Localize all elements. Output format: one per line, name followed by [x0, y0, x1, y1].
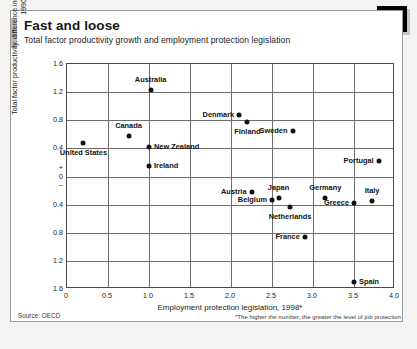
data-point-label: France: [276, 233, 300, 242]
y-tick-label: 1.2: [53, 87, 63, 96]
y-tick-label: 1.6: [53, 59, 63, 68]
data-point-label: Australia: [135, 76, 167, 85]
data-point-label: Spain: [359, 278, 379, 287]
gridline-vertical: [149, 64, 150, 287]
gridline-vertical: [190, 64, 191, 287]
y-tick-label: 1.6: [53, 284, 63, 293]
gridline-horizontal: [67, 148, 393, 149]
gridline-vertical: [231, 64, 232, 287]
x-tick-label: 1.0: [143, 291, 153, 300]
chart-title: Fast and loose: [24, 18, 120, 33]
data-point-label: Germany: [309, 184, 341, 193]
data-point-label: Denmark: [203, 110, 235, 119]
data-point-label: Finland: [234, 128, 260, 137]
x-tick-label: 1.5: [184, 291, 194, 300]
data-point: [376, 159, 381, 164]
x-tick-label: 2.0: [225, 291, 235, 300]
footnote-text: *The higher the number, the greater the …: [235, 313, 401, 320]
data-point: [245, 119, 250, 124]
data-point-label: Portugal: [344, 157, 374, 166]
data-point: [290, 128, 295, 133]
data-point: [237, 112, 242, 117]
x-tick-label: 3.5: [348, 291, 358, 300]
data-point-label: Ireland: [154, 162, 178, 171]
data-point-label: Italy: [365, 188, 380, 197]
data-point: [276, 196, 281, 201]
data-point-label: Belgium: [238, 196, 267, 205]
x-tick-label: 0.5: [102, 291, 112, 300]
data-point: [352, 200, 357, 205]
x-axis-title: Employment protection legislation, 1998*: [66, 303, 394, 312]
data-point-label: Sweden: [260, 127, 288, 136]
data-point: [147, 163, 152, 168]
data-point: [302, 234, 307, 239]
data-point-label: Japan: [268, 185, 289, 194]
data-point: [81, 140, 86, 145]
gridline-horizontal: [67, 92, 393, 93]
gridline-horizontal: [67, 177, 393, 178]
data-point-label: New Zealand: [154, 143, 199, 152]
gridline-vertical: [272, 64, 273, 287]
y-tick-label: 0.8: [53, 228, 63, 237]
gridline-horizontal: [67, 261, 393, 262]
data-point: [288, 205, 293, 210]
data-point: [147, 144, 152, 149]
data-point-label: Canada: [115, 122, 142, 131]
data-point: [148, 88, 153, 93]
data-point: [249, 189, 254, 194]
data-point-label: United States: [60, 149, 107, 158]
y-axis-title-wrap: Total factor productivity, difference in…: [30, 63, 44, 288]
y-tick-label: 0.4: [53, 200, 63, 209]
data-point-label: Greece: [324, 198, 349, 207]
data-point: [352, 279, 357, 284]
gridline-vertical: [108, 64, 109, 287]
gridline-vertical: [313, 64, 314, 287]
data-point: [370, 199, 375, 204]
gridline-horizontal: [67, 233, 393, 234]
x-tick-label: 0: [64, 291, 68, 300]
data-point: [126, 133, 131, 138]
data-point-label: Netherlands: [269, 213, 312, 222]
y-tick-label: 0.4: [53, 143, 63, 152]
source-note: Source: OECD: [18, 312, 60, 319]
x-tick-label: 3.0: [307, 291, 317, 300]
y-axis-title: Total factor productivity, difference in…: [11, 0, 29, 115]
x-tick-label: 2.5: [266, 291, 276, 300]
y-tick-label: 1.2: [53, 256, 63, 265]
gridline-vertical: [354, 64, 355, 287]
chart-page: 16 Fast and loose Total factor productiv…: [0, 0, 417, 349]
chart-subtitle: Total factor productivity growth and emp…: [24, 35, 290, 45]
x-tick-label: 4.0: [389, 291, 399, 300]
y-tick-label: 0.8: [53, 115, 63, 124]
y-tick-label: –: [59, 180, 63, 189]
plot-area: United StatesCanadaAustraliaNew ZealandI…: [66, 63, 394, 288]
data-point: [270, 198, 275, 203]
x-axis-ticks: 00.51.01.52.02.53.03.54.0: [66, 291, 394, 303]
